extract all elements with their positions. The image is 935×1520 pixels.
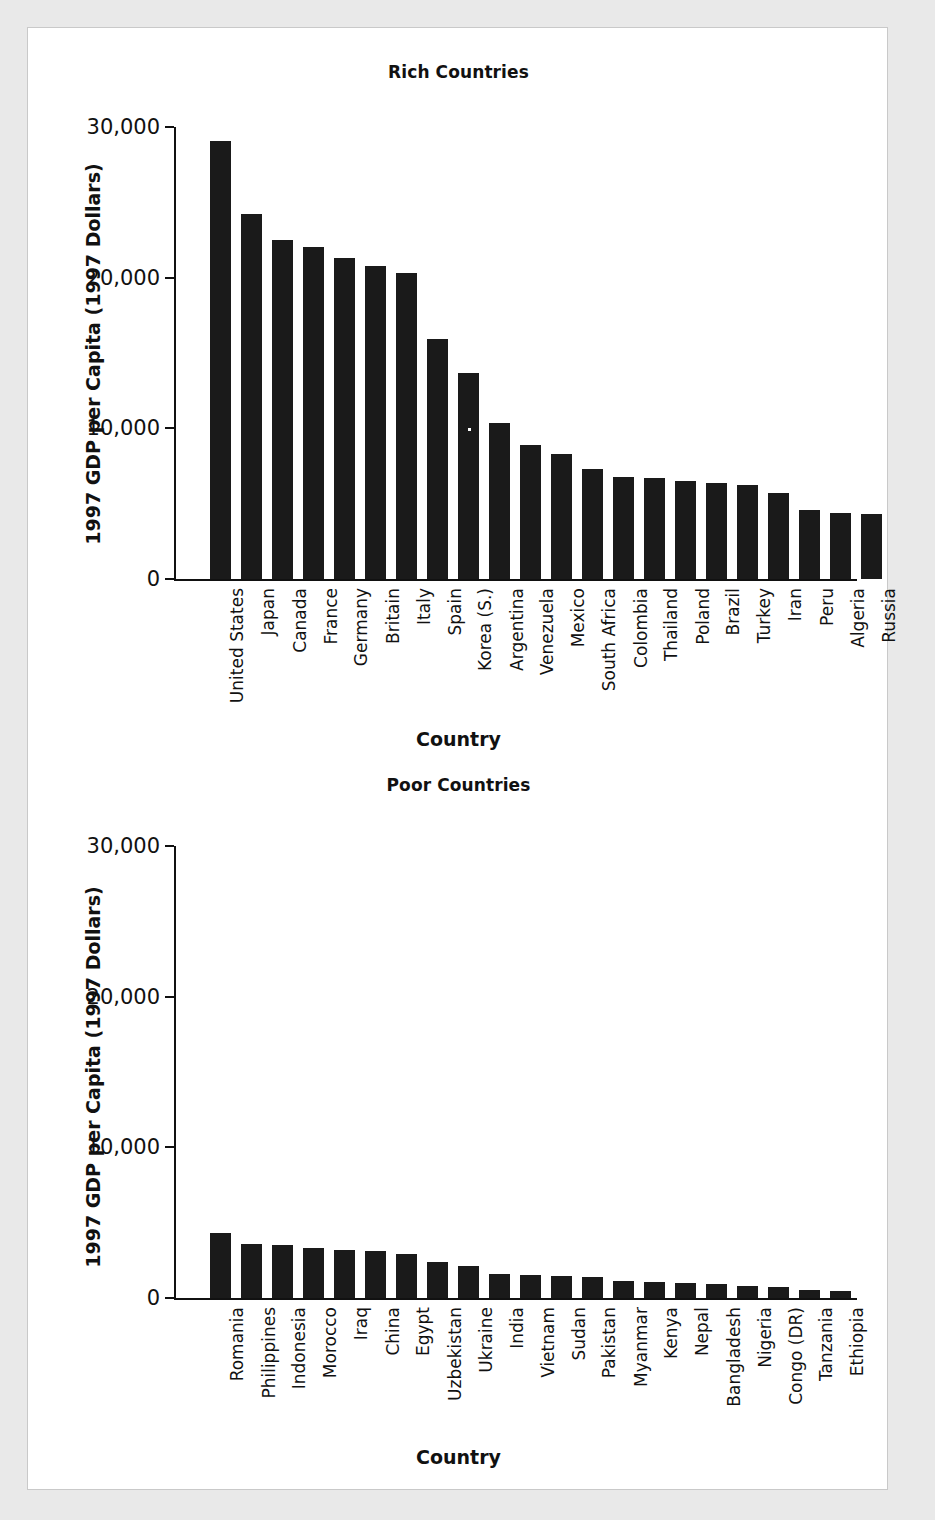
bar-spain — [427, 339, 448, 579]
bar-south-africa — [582, 469, 603, 579]
figure-panel: Rich Countries 1997 GDP per Capita (1997… — [27, 27, 888, 1490]
x-tick-label-uzbekistan: Uzbekistan — [445, 1307, 465, 1401]
x-tick-wrap: Egypt — [413, 1307, 414, 1308]
x-tick-wrap: Brazil — [723, 588, 724, 589]
y-tick-label-20000: 20,000 — [87, 985, 160, 1009]
bar-brazil — [706, 483, 727, 579]
y-tick-0 — [165, 578, 174, 580]
bar-myanmar — [613, 1281, 634, 1298]
x-tick-label-vietnam: Vietnam — [538, 1307, 558, 1378]
x-tick-wrap: Tanzania — [816, 1307, 817, 1308]
x-tick-wrap: Bangladesh — [723, 1307, 724, 1308]
x-tick-wrap: Canada — [289, 588, 290, 589]
y-tick-0 — [165, 1297, 174, 1299]
x-tick-wrap: Algeria — [847, 588, 848, 589]
bar-italy — [396, 273, 417, 579]
x-tick-wrap: Venezuela — [537, 588, 538, 589]
y-tick-30000 — [165, 845, 174, 847]
x-tick-label-kenya: Kenya — [662, 1307, 682, 1359]
y-axis-label-poor: 1997 GDP per Capita (1997 Dollars) — [82, 867, 104, 1287]
plot-area-rich: 010,00020,00030,000United StatesJapanCan… — [174, 127, 857, 579]
x-tick-wrap: Korea (S.) — [475, 588, 476, 589]
bar-china — [365, 1251, 386, 1298]
x-tick-wrap: Kenya — [661, 1307, 662, 1308]
x-tick-label-congo-dr: Congo (DR) — [786, 1307, 806, 1405]
x-tick-wrap: United States — [227, 588, 228, 589]
bar-algeria — [830, 513, 851, 579]
bar-sudan — [551, 1276, 572, 1298]
x-tick-label-nepal: Nepal — [693, 1307, 713, 1356]
bar-germany — [334, 258, 355, 579]
x-tick-wrap: Italy — [413, 588, 414, 589]
bar-uzbekistan — [427, 1262, 448, 1298]
x-tick-wrap: Ukraine — [475, 1307, 476, 1308]
bar-egypt — [396, 1254, 417, 1298]
y-tick-10000 — [165, 1146, 174, 1148]
bar-mexico — [551, 454, 572, 579]
bar-bangladesh — [706, 1284, 727, 1298]
bar-iraq — [334, 1250, 355, 1298]
x-tick-wrap: Spain — [444, 588, 445, 589]
bar-philippines — [241, 1244, 262, 1298]
x-tick-wrap: China — [382, 1307, 383, 1308]
x-tick-label-italy: Italy — [414, 588, 434, 625]
x-tick-wrap: Philippines — [258, 1307, 259, 1308]
y-axis-line-poor — [174, 846, 176, 1298]
bar-tanzania — [799, 1290, 820, 1298]
x-tick-wrap: Sudan — [568, 1307, 569, 1308]
x-tick-label-britain: Britain — [383, 588, 403, 644]
bar-turkey — [737, 485, 758, 579]
x-tick-wrap: Japan — [258, 588, 259, 589]
x-tick-wrap: Iraq — [351, 1307, 352, 1308]
bar-argentina — [489, 423, 510, 579]
x-tick-label-united-states: United States — [228, 588, 248, 703]
x-axis-label-rich: Country — [28, 728, 889, 750]
x-tick-label-india: India — [507, 1307, 527, 1349]
x-tick-wrap: Myanmar — [630, 1307, 631, 1308]
x-tick-wrap: Iran — [785, 588, 786, 589]
bar-nigeria — [737, 1286, 758, 1298]
x-tick-wrap: Congo (DR) — [785, 1307, 786, 1308]
y-tick-label-10000: 10,000 — [87, 1135, 160, 1159]
chart-title-rich: Rich Countries — [28, 62, 889, 82]
bar-ethiopia — [830, 1291, 851, 1298]
x-tick-wrap: Germany — [351, 588, 352, 589]
bar-iran — [768, 493, 789, 579]
y-tick-label-20000: 20,000 — [87, 266, 160, 290]
bar-congo-dr — [768, 1287, 789, 1298]
x-tick-label-japan: Japan — [259, 588, 279, 635]
x-tick-label-bangladesh: Bangladesh — [724, 1307, 744, 1407]
x-tick-label-romania: Romania — [228, 1307, 248, 1381]
x-tick-label-myanmar: Myanmar — [631, 1307, 651, 1387]
y-tick-30000 — [165, 126, 174, 128]
y-tick-label-30000: 30,000 — [87, 834, 160, 858]
y-tick-label-10000: 10,000 — [87, 416, 160, 440]
bar-ukraine — [458, 1266, 479, 1298]
x-tick-wrap: Britain — [382, 588, 383, 589]
x-tick-wrap: India — [506, 1307, 507, 1308]
x-tick-wrap: France — [320, 588, 321, 589]
x-tick-wrap: Russia — [878, 588, 879, 589]
x-tick-label-thailand: Thailand — [662, 588, 682, 661]
x-tick-label-pakistan: Pakistan — [600, 1307, 620, 1378]
x-tick-label-iran: Iran — [786, 588, 806, 621]
x-tick-label-korea-s: Korea (S.) — [476, 588, 496, 671]
plot-area-poor: 010,00020,00030,000RomaniaPhilippinesInd… — [174, 846, 857, 1298]
x-axis-line-poor — [174, 1298, 857, 1300]
x-tick-label-iraq: Iraq — [352, 1307, 372, 1340]
x-tick-label-canada: Canada — [290, 588, 310, 653]
y-axis-line-rich — [174, 127, 176, 579]
x-tick-label-russia: Russia — [879, 588, 899, 643]
x-tick-label-colombia: Colombia — [631, 588, 651, 668]
x-axis-line-rich — [174, 579, 857, 581]
bar-romania — [210, 1233, 231, 1298]
bar-kenya — [644, 1282, 665, 1298]
x-tick-label-tanzania: Tanzania — [817, 1307, 837, 1381]
x-tick-wrap: Pakistan — [599, 1307, 600, 1308]
x-tick-wrap: Indonesia — [289, 1307, 290, 1308]
x-tick-wrap: Ethiopia — [847, 1307, 848, 1308]
x-tick-label-indonesia: Indonesia — [290, 1307, 310, 1389]
page-root: Rich Countries 1997 GDP per Capita (1997… — [0, 0, 935, 1520]
x-tick-wrap: Morocco — [320, 1307, 321, 1308]
bar-russia — [861, 514, 882, 579]
